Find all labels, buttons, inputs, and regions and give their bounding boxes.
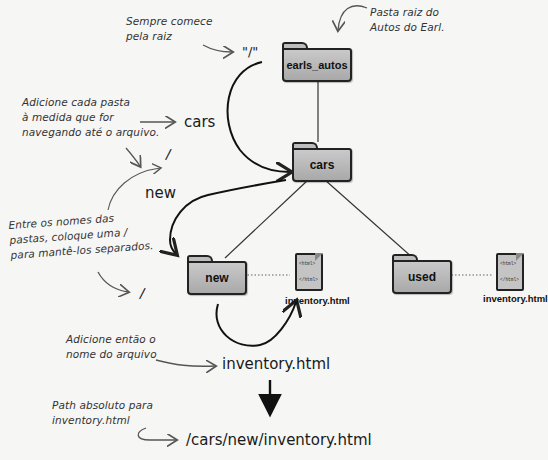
file-label-new-inventory: inventory.html	[285, 295, 350, 306]
arrow-absolute-path	[138, 428, 176, 440]
file-label-used-inventory: inventory.html	[483, 293, 548, 304]
flow-root-to-cars	[228, 62, 290, 172]
arrow-add-file	[156, 360, 215, 366]
tree-line-cars-new	[225, 180, 308, 258]
arrow-root-folder	[338, 6, 367, 30]
path-new: new	[145, 184, 176, 202]
folder-new: new	[187, 255, 247, 293]
folder-cars: cars	[292, 142, 352, 180]
path-cars: cars	[184, 113, 215, 131]
note-add-folder: Adicione cada pasta à medida que for nav…	[22, 95, 159, 140]
flow-new-to-file	[216, 302, 296, 346]
folder-used: used	[392, 254, 452, 292]
folder-label: new	[187, 261, 247, 295]
tree-line-cars-used	[325, 180, 413, 258]
note-root-folder: Pasta raiz do Autos do Earl.	[370, 5, 445, 35]
note-start-root: Sempre comece pela raiz	[126, 14, 213, 44]
path-root: "/"	[242, 44, 258, 59]
path-file: inventory.html	[222, 355, 330, 373]
arrow-to-slash1	[126, 148, 140, 166]
folder-label: earls_autos	[282, 48, 352, 82]
file-icon-new-inventory: <html> </html>	[295, 253, 323, 291]
note-add-file: Adicione então o nome do arquivo	[66, 332, 157, 362]
arrow-to-slash2	[98, 272, 128, 292]
folder-earls-autos: earls_autos	[282, 42, 352, 80]
folder-label: used	[392, 260, 452, 294]
file-icon-used-inventory: <html> </html>	[496, 253, 524, 291]
note-absolute-path: Path absoluto para inventory.html	[52, 398, 153, 428]
path-result: /cars/new/inventory.html	[186, 431, 372, 449]
arrow-start-root	[203, 45, 232, 52]
folder-label: cars	[292, 148, 352, 182]
